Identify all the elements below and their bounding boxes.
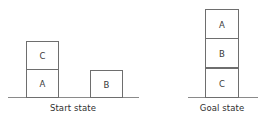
block-label-b-goal: B [206,50,238,59]
blocks-world-figure: C A B Start state A B C Goal state [0,0,271,124]
block-label-a-start: A [27,80,58,89]
block-label-b-start: B [91,81,122,90]
block-a-goal: A [205,9,239,39]
block-c-goal: C [205,68,239,98]
caption-goal-state: Goal state [0,104,271,113]
block-label-c-goal: C [206,80,238,89]
block-label-a-goal: A [206,21,238,30]
block-a-start: A [26,69,59,98]
block-c-start: C [26,41,59,70]
block-b-goal: B [205,38,239,68]
block-label-c-start: C [27,52,58,61]
block-b-start: B [90,70,123,98]
